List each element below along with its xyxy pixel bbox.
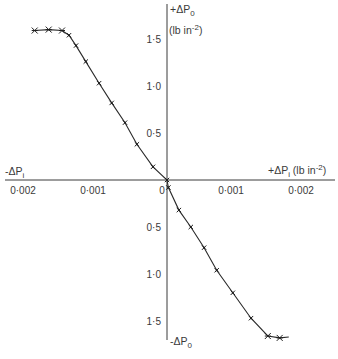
x-neg-sub: i bbox=[23, 171, 25, 180]
data-point bbox=[59, 28, 65, 34]
data-point-dot bbox=[85, 61, 87, 63]
pressure-response-chart: -ΔPi +ΔPi (lb in-2) +ΔP0 (lb in-2) -ΔP0 … bbox=[0, 0, 338, 359]
data-point-dot bbox=[232, 292, 234, 294]
data-point bbox=[135, 142, 139, 146]
x-pos-main: +ΔP bbox=[268, 164, 288, 176]
data-point bbox=[249, 316, 253, 320]
x-neg-main: -ΔP bbox=[5, 165, 23, 177]
x-tick-label: 0·001 bbox=[218, 185, 244, 196]
data-point-dot bbox=[152, 166, 154, 168]
y-neg-main: -ΔP bbox=[170, 335, 188, 347]
data-point bbox=[74, 43, 78, 47]
y-axis-negative-label: -ΔP0 bbox=[170, 335, 193, 350]
data-point-dot bbox=[166, 179, 168, 181]
y-tick-label: 1·0 bbox=[147, 81, 162, 92]
data-point bbox=[67, 33, 71, 37]
y-units-close: ) bbox=[199, 24, 203, 36]
data-point bbox=[46, 27, 52, 33]
data-point-dot bbox=[98, 82, 100, 84]
y-neg-sub: 0 bbox=[188, 341, 193, 350]
data-point bbox=[151, 165, 155, 169]
x-tick-label: 0·002 bbox=[10, 185, 36, 196]
x-axis-negative-label: -ΔPi bbox=[5, 165, 25, 180]
data-point bbox=[97, 81, 101, 85]
y-tick-label: 1·5 bbox=[147, 34, 162, 45]
y-pos-sub: 0 bbox=[190, 9, 195, 18]
x-tick-label: 0 bbox=[159, 185, 165, 196]
data-point-dot bbox=[167, 187, 169, 189]
y-units-open: (lb in bbox=[169, 24, 192, 36]
data-point bbox=[110, 101, 114, 105]
data-point-dot bbox=[68, 34, 70, 36]
data-point-dot bbox=[250, 317, 252, 319]
x-axis-positive-label: +ΔPi (lb in-2) bbox=[268, 163, 326, 179]
data-point bbox=[177, 208, 181, 212]
data-point-dot bbox=[111, 102, 113, 104]
data-point-dot bbox=[190, 226, 192, 228]
data-point-dot bbox=[124, 122, 126, 124]
y-tick-label: 1·0 bbox=[147, 269, 162, 280]
data-point-dot bbox=[75, 45, 77, 47]
y-tick-label: 0·5 bbox=[147, 222, 162, 233]
x-tick-label: 0·002 bbox=[288, 185, 314, 196]
data-point bbox=[189, 225, 193, 229]
data-point-dot bbox=[136, 143, 138, 145]
y-axis-positive-label: +ΔP0 bbox=[170, 3, 195, 18]
x-pos-units-open: (lb in bbox=[290, 164, 316, 176]
data-point bbox=[277, 335, 283, 341]
y-pos-main: +ΔP bbox=[170, 3, 190, 15]
data-point-dot bbox=[216, 269, 218, 271]
data-point bbox=[202, 245, 206, 249]
data-point bbox=[84, 59, 88, 63]
data-point bbox=[215, 268, 219, 272]
data-point-dot bbox=[203, 247, 205, 249]
y-tick-label: 0·5 bbox=[147, 128, 162, 139]
x-tick-labels: 0·0020·00100·0010·002 bbox=[10, 185, 314, 196]
x-tick-label: 0·001 bbox=[80, 185, 106, 196]
data-point bbox=[32, 28, 38, 34]
y-tick-label: 1·5 bbox=[147, 316, 162, 327]
data-series bbox=[32, 27, 289, 341]
series-line bbox=[35, 30, 289, 338]
data-point-dot bbox=[178, 209, 180, 211]
x-pos-units-close: ) bbox=[323, 164, 327, 176]
data-point bbox=[123, 120, 127, 124]
y-axis-units-label: (lb in-2) bbox=[169, 23, 202, 36]
data-point bbox=[231, 291, 235, 295]
data-point bbox=[265, 333, 271, 339]
